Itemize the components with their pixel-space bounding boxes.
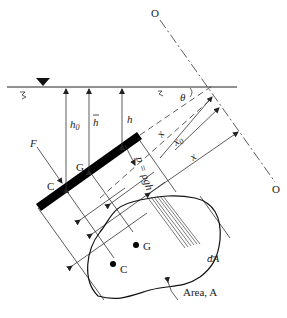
proj-line-1 [38,208,104,300]
proj-line-3 [90,172,133,232]
diagram-canvas: O O h0 h h F C G p = ρgh x x0 x θ [0,0,287,318]
label-area: Area, A [183,286,217,298]
angle-theta-arc [190,88,192,97]
force-arrow [37,147,62,183]
surface-ripple-left-icon [20,92,26,99]
label-h0: h0 [70,118,80,132]
label-g-area: G [143,240,151,252]
proj-line-2 [66,190,114,258]
label-c-plate: C [47,180,54,192]
hydrostatic-diagram: O O h0 h h F C G p = ρgh x x0 x θ [0,0,287,318]
label-xbar: x [153,128,166,140]
center-pressure-point-area [110,261,116,267]
proj-line-5 [200,196,230,238]
label-theta: θ [180,91,186,103]
water-surface-triangle-icon [36,78,50,86]
area-leader [168,282,178,300]
label-hbar: h [93,116,99,128]
label-g-plate: G [76,161,84,173]
dist-arrow-a [72,213,147,266]
xbar-arrow [160,97,212,158]
strip-da-hatching [148,196,200,248]
pressure-arrow [125,145,135,165]
centroid-point-area [133,242,139,248]
label-x0: x0 [169,133,185,150]
axis-label-top: O [151,7,159,19]
axis-o-o [160,20,275,182]
label-force: F [29,137,37,149]
area-blob [88,196,221,299]
axis-label-bottom: O [272,183,280,195]
label-c-area: C [120,263,127,275]
label-da-text: dA [207,252,220,264]
surface-ripple-right-icon [158,91,163,96]
label-h: h [127,113,133,125]
plate-extension-dashed [140,86,212,135]
